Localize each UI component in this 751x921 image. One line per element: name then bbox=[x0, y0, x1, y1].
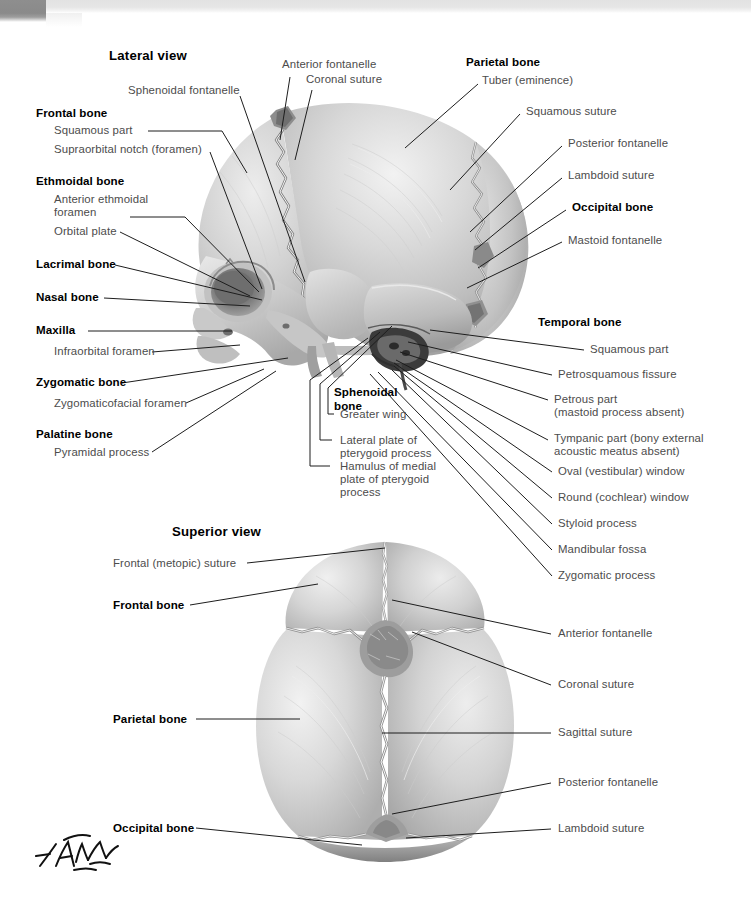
label-anterior-fontanelle-lateral: Anterior fontanelle bbox=[282, 58, 376, 71]
anatomy-plate: Lateral view Sphenoidal fontanelle Front… bbox=[0, 0, 751, 921]
scan-artifact-fade bbox=[46, 13, 82, 27]
superior-view-title: Superior view bbox=[172, 526, 261, 539]
label-petrous-part-note: (mastoid process absent) bbox=[554, 406, 684, 419]
label-coronal-suture-superior: Coronal suture bbox=[558, 678, 634, 691]
label-tympanic-part: Tympanic part (bony external bbox=[554, 432, 704, 445]
label-nasal-bone: Nasal bone bbox=[36, 291, 99, 304]
artist-signature bbox=[34, 832, 130, 876]
label-squamous-suture: Squamous suture bbox=[526, 105, 617, 118]
label-lambdoid-suture-superior: Lambdoid suture bbox=[558, 822, 644, 835]
label-squamous-part-frontal: Squamous part bbox=[54, 124, 133, 137]
label-posterior-fontanelle: Posterior fontanelle bbox=[568, 137, 668, 150]
scan-artifact-corner bbox=[0, 0, 46, 22]
scan-artifact-band bbox=[0, 0, 751, 13]
label-round-window: Round (cochlear) window bbox=[558, 491, 689, 504]
label-sagittal-suture-superior: Sagittal suture bbox=[558, 726, 632, 739]
label-hamulus-line1: Hamulus of medial bbox=[340, 460, 436, 473]
label-mandibular-fossa: Mandibular fossa bbox=[558, 543, 646, 556]
label-anterior-ethmoidal-foramen: foramen bbox=[54, 206, 97, 219]
label-mastoid-fontanelle: Mastoid fontanelle bbox=[568, 234, 662, 247]
label-anterior-fontanelle-superior: Anterior fontanelle bbox=[558, 627, 652, 640]
label-maxilla: Maxilla bbox=[36, 324, 75, 337]
label-lateral-plate-line2: pterygoid process bbox=[340, 447, 432, 460]
label-frontal-bone-superior: Frontal bone bbox=[113, 599, 184, 612]
label-supraorbital-notch: Supraorbital notch (foramen) bbox=[54, 143, 202, 156]
label-greater-wing: Greater wing bbox=[340, 408, 406, 421]
superior-skull-illustration bbox=[236, 536, 536, 866]
lateral-skull-illustration bbox=[176, 96, 556, 401]
label-occipital-bone: Occipital bone bbox=[572, 201, 653, 214]
lateral-view-title: Lateral view bbox=[109, 50, 187, 63]
label-tuber-eminence: Tuber (eminence) bbox=[482, 74, 573, 87]
label-palatine-bone: Palatine bone bbox=[36, 428, 113, 441]
label-pyramidal-process: Pyramidal process bbox=[54, 446, 149, 459]
label-anterior-ethmoidal: Anterior ethmoidal bbox=[54, 193, 148, 206]
label-coronal-suture-lateral: Coronal suture bbox=[306, 73, 382, 86]
label-squamous-part-temporal: Squamous part bbox=[590, 343, 669, 356]
label-petrosquamous-fissure: Petrosquamous fissure bbox=[558, 368, 677, 381]
label-hamulus-line3: process bbox=[340, 486, 381, 499]
label-lacrimal-bone: Lacrimal bone bbox=[36, 258, 116, 271]
label-temporal-bone: Temporal bone bbox=[538, 316, 622, 329]
label-frontal-bone: Frontal bone bbox=[36, 107, 107, 120]
label-ethmoidal-bone: Ethmoidal bone bbox=[36, 175, 124, 188]
label-frontal-metopic-suture: Frontal (metopic) suture bbox=[113, 557, 236, 570]
label-zygomatic-process: Zygomatic process bbox=[558, 569, 655, 582]
label-zygomaticofacial-foramen: Zygomaticofacial foramen bbox=[54, 397, 187, 410]
label-hamulus-line2: plate of pterygoid bbox=[340, 473, 429, 486]
label-orbital-plate: Orbital plate bbox=[54, 225, 117, 238]
label-sphenoidal-fontanelle: Sphenoidal fontanelle bbox=[128, 84, 240, 97]
label-lambdoid-suture: Lambdoid suture bbox=[568, 169, 654, 182]
label-lateral-plate-line1: Lateral plate of bbox=[340, 434, 417, 447]
label-tympanic-part-note: acoustic meatus absent) bbox=[554, 445, 680, 458]
label-oval-window: Oval (vestibular) window bbox=[558, 465, 684, 478]
label-sphenoidal-bone-line1: Sphenoidal bbox=[334, 386, 397, 399]
label-styloid-process: Styloid process bbox=[558, 517, 637, 530]
label-zygomatic-bone: Zygomatic bone bbox=[36, 376, 126, 389]
label-petrous-part: Petrous part bbox=[554, 393, 617, 406]
label-parietal-bone: Parietal bone bbox=[466, 56, 540, 69]
label-parietal-bone-superior: Parietal bone bbox=[113, 713, 187, 726]
label-infraorbital-foramen: Infraorbital foramen bbox=[54, 345, 155, 358]
label-posterior-fontanelle-superior: Posterior fontanelle bbox=[558, 776, 658, 789]
